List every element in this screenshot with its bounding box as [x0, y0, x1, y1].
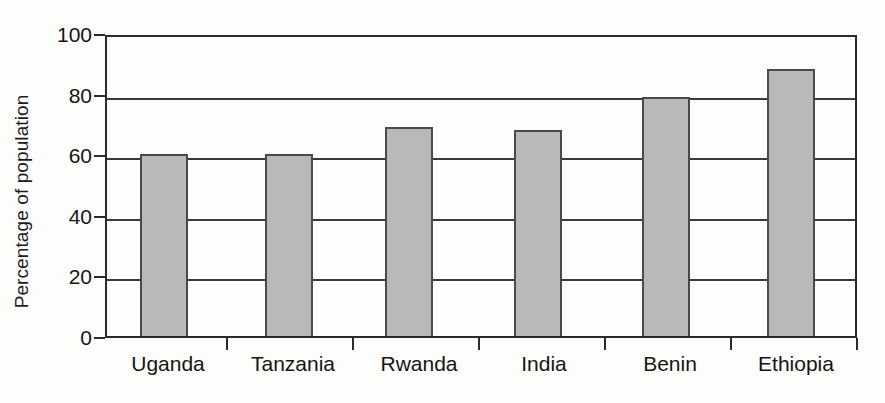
y-tick-mark [94, 95, 105, 97]
x-tick-mark [226, 338, 228, 350]
gridline-40 [107, 219, 855, 221]
x-tick-mark [856, 338, 858, 350]
x-tick-mark [604, 338, 606, 350]
gridline-60 [107, 158, 855, 160]
x-tick-mark [352, 338, 354, 350]
bar-chart-figure: to of the and in Percentage of populatio… [0, 0, 885, 403]
bar-benin [642, 97, 690, 336]
bar-ethiopia [767, 69, 815, 336]
x-tick-label-ethiopia: Ethiopia [758, 352, 834, 376]
y-tick-label: 100 [46, 23, 92, 47]
plot-area [105, 35, 857, 338]
y-tick-label: 0 [46, 326, 92, 350]
x-tick-mark [730, 338, 732, 350]
y-axis-tick-labels: 100 80 60 40 20 0 [40, 0, 92, 403]
y-tick-mark [94, 276, 105, 278]
y-tick-label: 80 [46, 84, 92, 108]
y-axis-title: Percentage of population [0, 0, 44, 403]
y-tick-mark [94, 337, 105, 339]
x-tick-label-benin: Benin [643, 352, 697, 376]
bar-rwanda [385, 127, 433, 336]
y-tick-label: 60 [46, 144, 92, 168]
y-tick-label: 20 [46, 265, 92, 289]
bar-uganda [140, 154, 188, 336]
y-tick-mark [94, 155, 105, 157]
x-tick-mark [478, 338, 480, 350]
x-tick-label-india: India [521, 352, 567, 376]
bar-tanzania [265, 154, 313, 336]
x-tick-label-rwanda: Rwanda [380, 352, 457, 376]
y-tick-label: 40 [46, 205, 92, 229]
x-tick-label-uganda: Uganda [131, 352, 205, 376]
gridline-20 [107, 279, 855, 281]
y-tick-mark [94, 216, 105, 218]
bar-india [514, 130, 562, 336]
y-tick-mark [94, 34, 105, 36]
x-tick-label-tanzania: Tanzania [251, 352, 335, 376]
gridline-80 [107, 98, 855, 100]
